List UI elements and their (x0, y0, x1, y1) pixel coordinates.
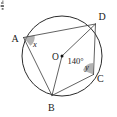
radius-ob (52, 56, 62, 96)
label-center-o: O (52, 52, 59, 62)
label-central-angle: 140° (68, 56, 84, 66)
chord-ab (24, 38, 53, 96)
label-point-b: B (48, 102, 55, 113)
circle-geometry-figure: A B C D O x y 140° (0, 0, 117, 117)
label-point-d: D (99, 11, 106, 22)
label-point-c: C (97, 73, 104, 84)
corner-mark-icon (1, 0, 4, 9)
chord-ad (24, 24, 96, 38)
label-angle-y: y (84, 62, 89, 72)
chord-bc (52, 75, 94, 96)
center-point-dot (61, 55, 64, 58)
radius-od (62, 24, 96, 56)
label-point-a: A (12, 33, 20, 44)
label-angle-x: x (32, 39, 37, 49)
